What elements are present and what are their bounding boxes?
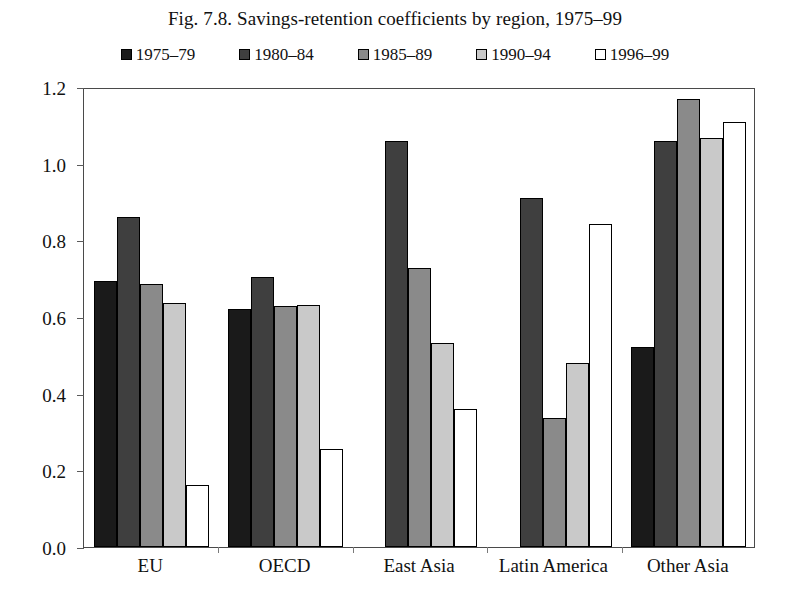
legend-label: 1985–89	[373, 46, 433, 63]
legend-item: 1975–79	[121, 46, 196, 63]
bar	[589, 224, 612, 547]
y-axis-tick-label: 1.2	[42, 79, 66, 98]
figure-container: Fig. 7.8. Savings-retention coefficients…	[0, 0, 790, 604]
x-axis-category-label: Other Asia	[647, 556, 729, 577]
bar	[454, 409, 477, 547]
bar	[228, 309, 251, 547]
x-axis-labels: EUOECDEast AsiaLatin AmericaOther Asia	[83, 556, 755, 596]
legend-item: 1985–89	[358, 46, 433, 63]
x-axis-category-label: East Asia	[383, 556, 454, 577]
y-axis-tick-mark	[77, 395, 84, 396]
bar	[677, 99, 700, 548]
bar	[140, 284, 163, 547]
bar-group	[487, 89, 621, 547]
x-axis-category-label: OECD	[259, 556, 311, 577]
bars-layer	[84, 89, 754, 547]
bar	[543, 418, 566, 547]
x-axis-tick-mark	[353, 547, 354, 553]
bar	[186, 485, 209, 547]
y-axis-tick-mark	[77, 165, 84, 166]
x-axis-tick-mark	[218, 547, 219, 553]
y-axis-tick-mark	[77, 88, 84, 89]
legend-swatch-icon	[121, 49, 132, 60]
y-axis-tick-mark	[77, 471, 84, 472]
bar	[408, 268, 431, 547]
bar	[700, 138, 723, 547]
bar	[297, 305, 320, 547]
legend-label: 1975–79	[136, 46, 196, 63]
bar-group	[84, 89, 218, 547]
legend-swatch-icon	[595, 49, 606, 60]
y-axis-tick-mark	[77, 548, 84, 549]
y-axis-tick-label: 0.8	[42, 232, 66, 251]
bar-group	[218, 89, 352, 547]
plot-area	[83, 88, 755, 548]
bar	[117, 217, 140, 547]
legend-swatch-icon	[239, 49, 250, 60]
bar	[94, 281, 117, 547]
x-axis-tick-mark	[487, 547, 488, 553]
legend-label: 1996–99	[610, 46, 670, 63]
chart-title: Fig. 7.8. Savings-retention coefficients…	[0, 8, 790, 30]
bar	[274, 306, 297, 547]
bar	[320, 449, 343, 547]
legend-label: 1980–84	[254, 46, 314, 63]
y-axis-tick-mark	[77, 241, 84, 242]
y-axis-tick-label: 1.0	[42, 155, 66, 174]
bar	[431, 343, 454, 547]
bar	[385, 141, 408, 547]
y-axis-tick-mark	[77, 318, 84, 319]
bar-group	[622, 89, 756, 547]
bar	[520, 198, 543, 547]
bar	[654, 141, 677, 547]
x-axis-category-label: EU	[138, 556, 163, 577]
legend-item: 1996–99	[595, 46, 670, 63]
legend-label: 1990–94	[491, 46, 551, 63]
y-axis-tick-label: 0.6	[42, 309, 66, 328]
legend-swatch-icon	[476, 49, 487, 60]
bar	[631, 347, 654, 547]
y-axis-tick-label: 0.0	[42, 539, 66, 558]
bar-group	[353, 89, 487, 547]
y-axis-tick-label: 0.4	[42, 385, 66, 404]
bar	[163, 303, 186, 547]
bar	[723, 122, 746, 548]
legend-swatch-icon	[358, 49, 369, 60]
legend-item: 1980–84	[239, 46, 314, 63]
y-axis-labels: 0.00.20.40.60.81.01.2	[0, 88, 76, 548]
bar	[566, 363, 589, 547]
chart-legend: 1975–791980–841985–891990–941996–99	[0, 46, 790, 63]
legend-item: 1990–94	[476, 46, 551, 63]
x-axis-category-label: Latin America	[499, 556, 608, 577]
x-axis-tick-mark	[622, 547, 623, 553]
y-axis-tick-label: 0.2	[42, 462, 66, 481]
bar	[251, 277, 274, 547]
